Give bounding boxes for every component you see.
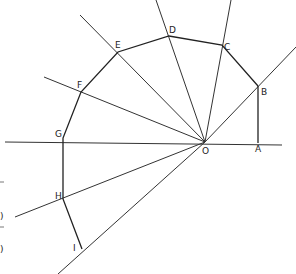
ray-OB	[205, 47, 296, 142]
point-label-h: H	[55, 191, 62, 201]
point-label-g: G	[55, 129, 62, 139]
baseline	[5, 142, 282, 145]
ray-OC	[205, 0, 231, 142]
rays-group	[5, 0, 296, 274]
point-label-d: D	[169, 25, 176, 35]
ray-OE	[80, 15, 205, 142]
point-label-b: B	[261, 87, 267, 97]
ray-OI	[58, 142, 205, 274]
labels-group: ABCDEFGHIO	[55, 25, 267, 253]
geometric-diagram: ABCDEFGHIO ) )	[0, 0, 296, 274]
point-label-f: F	[77, 80, 82, 90]
ray-OD	[156, 0, 205, 142]
point-label-a: A	[255, 144, 262, 154]
margin-paren-2: )	[0, 244, 4, 254]
point-label-c: C	[224, 42, 230, 52]
point-label-e: E	[115, 40, 121, 50]
point-label-i: I	[73, 243, 76, 253]
margin-marks: ) )	[0, 182, 4, 254]
ray-OF	[44, 77, 205, 142]
margin-paren-1: )	[0, 211, 4, 221]
ray-OH	[15, 142, 205, 217]
point-label-o: O	[202, 146, 209, 156]
